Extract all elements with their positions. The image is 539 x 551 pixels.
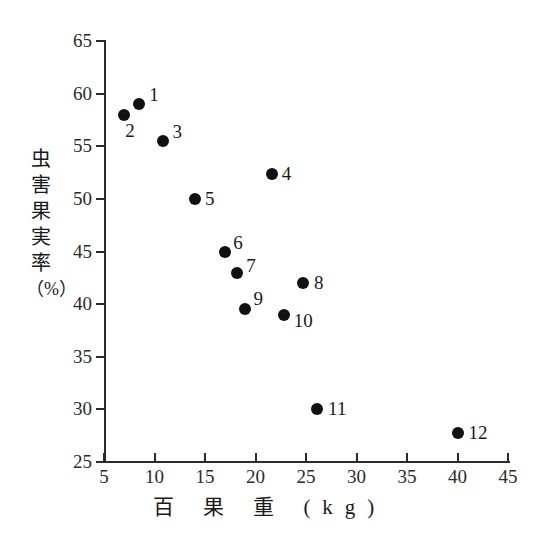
data-point (118, 109, 130, 121)
data-point (231, 267, 243, 279)
x-tick-label: 30 (334, 467, 380, 486)
plot-area: 123456789101112 (104, 41, 508, 462)
x-tick-label: 20 (233, 467, 279, 486)
data-point-label: 11 (328, 399, 346, 418)
data-point (219, 246, 231, 258)
y-tick-label: 55 (52, 136, 92, 155)
y-axis-title-char: 果 (26, 198, 56, 224)
data-point (239, 303, 251, 315)
y-axis-title: 虫害果実率（%） (26, 146, 56, 302)
data-point-label: 10 (294, 311, 313, 330)
x-axis-title: 百 果 重 (kg) (0, 495, 539, 519)
data-point (311, 403, 323, 415)
y-axis-title-char: 虫 (26, 146, 56, 172)
y-tick-label: 35 (52, 347, 92, 366)
scatter-chart-figure: 253035404550556065 51015202530354045 123… (0, 0, 539, 551)
data-point-label: 3 (173, 122, 183, 141)
data-point-label: 12 (469, 423, 488, 442)
y-tick-label: 45 (52, 242, 92, 261)
x-tick-label: 5 (81, 467, 127, 486)
y-axis-title-char: （%） (26, 276, 56, 302)
y-tick-label: 30 (52, 399, 92, 418)
x-tick-label: 10 (132, 467, 178, 486)
data-point (189, 193, 201, 205)
x-tick-label: 45 (485, 467, 531, 486)
x-tick-label: 15 (182, 467, 228, 486)
data-point (133, 98, 145, 110)
y-axis-title-char: 率 (26, 250, 56, 276)
y-tick-label: 50 (52, 189, 92, 208)
data-point-label: 2 (125, 121, 135, 140)
data-point (297, 277, 309, 289)
y-axis-title-char: 害 (26, 172, 56, 198)
y-tick-label: 60 (52, 84, 92, 103)
data-point-label: 9 (253, 289, 263, 308)
x-axis-title-text: 百 果 重 (kg) (153, 495, 387, 519)
x-tick-label: 35 (384, 467, 430, 486)
x-tick-label: 25 (283, 467, 329, 486)
data-point-label: 4 (282, 164, 292, 183)
y-axis-title-char: 実 (26, 224, 56, 250)
y-tick-label: 65 (52, 31, 92, 50)
data-point (452, 427, 464, 439)
x-tick-label: 40 (435, 467, 481, 486)
data-point (266, 168, 278, 180)
data-point-label: 8 (314, 273, 324, 292)
data-point-label: 5 (205, 189, 215, 208)
data-point (278, 309, 290, 321)
data-point-label: 6 (233, 233, 243, 252)
data-point-label: 7 (246, 256, 256, 275)
data-point (157, 135, 169, 147)
data-point-label: 1 (149, 85, 159, 104)
